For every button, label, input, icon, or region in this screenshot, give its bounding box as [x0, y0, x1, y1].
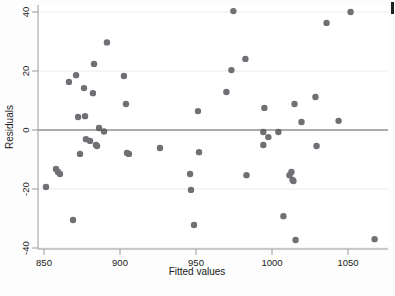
scatter-point	[291, 101, 297, 107]
scatter-point	[87, 138, 93, 144]
scatter-point	[292, 237, 298, 243]
scatter-point	[196, 149, 202, 155]
scatter-point	[335, 118, 341, 124]
scatter-point	[312, 94, 318, 100]
scatter-point	[123, 101, 129, 107]
y-tick-label: -40	[20, 241, 31, 255]
y-axis-title: Residuals	[4, 105, 15, 149]
scatter-point	[43, 184, 49, 190]
scatter-point	[75, 114, 81, 120]
edge-artifact-mark	[391, 2, 394, 14]
scatter-point	[298, 119, 304, 125]
y-tick-label: 40	[20, 7, 31, 18]
scatter-point	[77, 151, 83, 157]
scatter-point	[230, 8, 236, 14]
scatter-point	[243, 172, 249, 178]
residuals-vs-fitted-scatter: -40-2002040 85090095010001050 Fitted val…	[0, 0, 395, 296]
scatter-point	[104, 39, 110, 45]
scatter-point	[323, 20, 329, 26]
scatter-point	[121, 73, 127, 79]
x-tick-label: 900	[112, 257, 128, 268]
scatter-point	[313, 143, 319, 149]
scatter-point	[90, 90, 96, 96]
scatter-point	[347, 9, 353, 15]
scatter-point	[94, 143, 100, 149]
scatter-point	[66, 79, 72, 85]
scatter-point	[101, 128, 107, 134]
scatter-plot-figure: -40-2002040 85090095010001050 Fitted val…	[0, 0, 395, 296]
scatter-point	[280, 213, 286, 219]
scatter-point	[290, 178, 296, 184]
y-tick-label: -20	[20, 182, 31, 196]
x-tick-label: 1000	[261, 257, 282, 268]
scatter-point	[228, 67, 234, 73]
scatter-point	[261, 105, 267, 111]
scatter-point	[82, 113, 88, 119]
scatter-point	[57, 171, 63, 177]
x-tick-label: 1050	[337, 257, 358, 268]
scatter-point	[187, 171, 193, 177]
scatter-point	[91, 61, 97, 67]
scatter-point	[223, 89, 229, 95]
plot-area-background	[38, 5, 388, 249]
scatter-point	[191, 222, 197, 228]
scatter-point	[371, 236, 377, 242]
scatter-point	[265, 134, 271, 140]
scatter-point	[126, 151, 132, 157]
y-tick-label: 20	[20, 66, 31, 77]
scatter-point	[260, 142, 266, 148]
scatter-point	[242, 56, 248, 62]
x-tick-label: 850	[36, 257, 52, 268]
y-tick-label: 0	[20, 127, 31, 132]
x-axis-title: Fitted values	[169, 266, 226, 277]
scatter-point	[195, 108, 201, 114]
scatter-point	[288, 169, 294, 175]
scatter-point	[157, 145, 163, 151]
scatter-point	[70, 217, 76, 223]
scatter-point	[73, 72, 79, 78]
scatter-point	[188, 187, 194, 193]
scatter-point	[81, 85, 87, 91]
